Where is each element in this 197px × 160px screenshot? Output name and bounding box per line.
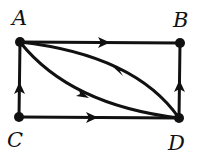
label-d: D <box>168 133 185 154</box>
edge-a-to-d-curve <box>20 42 179 118</box>
node-c <box>14 112 24 122</box>
edge-c-to-d <box>19 117 179 118</box>
node-b <box>175 38 185 48</box>
label-a: A <box>12 8 27 29</box>
label-b: B <box>173 10 188 31</box>
edge-a-to-b <box>20 42 180 43</box>
graph-diagram: A B C D <box>0 0 197 160</box>
edge-c-to-a <box>19 42 20 117</box>
node-a <box>15 37 25 47</box>
label-c: C <box>7 130 23 151</box>
edge-d-to-a-curve <box>20 42 179 118</box>
node-d <box>174 113 184 123</box>
